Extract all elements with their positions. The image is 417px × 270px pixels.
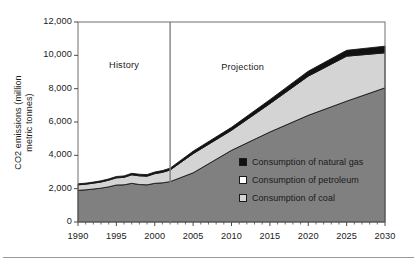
- legend-swatch-icon: [239, 194, 247, 202]
- legend-label: Consumption of natural gas: [252, 157, 363, 167]
- legend-coal: Consumption of coal: [239, 189, 389, 207]
- x-tick-label: 2030: [363, 231, 407, 241]
- y-tick-label: 8,000: [18, 83, 72, 93]
- legend-label: Consumption of coal: [252, 193, 335, 203]
- y-tick-label: 0: [18, 216, 72, 226]
- y-tick-label: 2,000: [18, 183, 72, 193]
- region-label-projection: Projection: [170, 62, 315, 72]
- y-tick-label: 6,000: [18, 116, 72, 126]
- legend-petroleum: Consumption of petroleum: [239, 171, 389, 189]
- chart-legend: Consumption of natural gasConsumption of…: [239, 153, 389, 207]
- legend-swatch-icon: [239, 176, 247, 184]
- y-tick-label: 12,000: [18, 16, 72, 26]
- plot-area: [0, 0, 417, 270]
- y-tick-label: 4,000: [18, 149, 72, 159]
- legend-label: Consumption of petroleum: [252, 175, 359, 185]
- legend-natural-gas: Consumption of natural gas: [239, 153, 389, 171]
- legend-swatch-icon: [239, 158, 247, 166]
- page-divider-rule: [3, 257, 414, 258]
- region-label-history: History: [68, 60, 180, 70]
- y-tick-label: 10,000: [18, 49, 72, 59]
- co2-emissions-stacked-area-chart: CO2 emissions (million metric tonnes) Hi…: [0, 0, 417, 270]
